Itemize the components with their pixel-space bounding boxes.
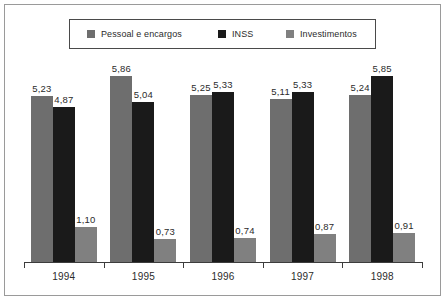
- bar-rect: [190, 95, 212, 262]
- bar-rect: [234, 238, 256, 262]
- x-axis-tick: [263, 262, 264, 268]
- bar: 5,04: [132, 102, 154, 262]
- chart-legend: Pessoal e encargos INSS Investimentos: [69, 19, 376, 49]
- x-axis-tick: [183, 262, 184, 268]
- bar-value-label: 0,73: [156, 226, 175, 237]
- bar-rect: [292, 92, 314, 262]
- bar-rect: [371, 76, 393, 262]
- bar-value-label: 5,85: [373, 63, 392, 74]
- legend-entry-investimentos: Investimentos: [286, 29, 357, 39]
- bar-rect: [314, 234, 336, 262]
- bar: 5,33: [292, 92, 314, 262]
- legend-swatch-icon: [218, 30, 226, 38]
- x-axis-tick: [104, 262, 105, 268]
- bar-rect: [212, 92, 234, 262]
- bar-value-label: 0,74: [235, 225, 254, 236]
- bar-group: 5,115,330,87: [263, 60, 343, 262]
- bar-value-label: 5,24: [351, 82, 370, 93]
- bar-value-label: 0,91: [395, 220, 414, 231]
- x-axis-line: [24, 262, 422, 263]
- bar: 0,74: [234, 238, 256, 262]
- bar: 5,85: [371, 76, 393, 262]
- bar-chart-figure: Pessoal e encargos INSS Investimentos 5,…: [0, 0, 445, 300]
- legend-swatch-icon: [286, 30, 294, 38]
- bar-value-label: 5,11: [271, 86, 290, 97]
- legend-entry-pessoal-e-encargos: Pessoal e encargos: [87, 29, 182, 39]
- bar-group: 5,245,850,91: [342, 60, 422, 262]
- bar-group: 5,255,330,74: [183, 60, 263, 262]
- bar-value-label: 5,23: [32, 83, 51, 94]
- bar-group: 5,234,871,10: [24, 60, 104, 262]
- bar: 0,91: [393, 233, 415, 262]
- x-axis-category-label: 1998: [371, 271, 394, 282]
- bar-rect: [110, 76, 132, 262]
- bar-rect: [270, 99, 292, 262]
- bar-value-label: 1,10: [76, 214, 95, 225]
- bar-rect: [53, 107, 75, 262]
- bar-rect: [75, 227, 97, 262]
- x-axis-category-label: 1995: [132, 271, 155, 282]
- bar-rect: [154, 239, 176, 262]
- x-axis-tick: [24, 262, 25, 268]
- bar: 5,86: [110, 76, 132, 262]
- legend-label: INSS: [232, 29, 253, 39]
- bar: 5,25: [190, 95, 212, 262]
- bar-rect: [31, 96, 53, 262]
- plot-area: 5,234,871,105,865,040,735,255,330,745,11…: [24, 60, 422, 262]
- bar-group: 5,865,040,73: [104, 60, 184, 262]
- bar-value-label: 4,87: [54, 94, 73, 105]
- x-axis-tick: [342, 262, 343, 268]
- bar: 5,24: [349, 95, 371, 262]
- legend-label: Pessoal e encargos: [101, 29, 182, 39]
- bar: 5,33: [212, 92, 234, 262]
- bar: 5,23: [31, 96, 53, 262]
- legend-swatch-icon: [87, 30, 95, 38]
- bar-rect: [132, 102, 154, 262]
- bar-value-label: 5,25: [191, 82, 210, 93]
- bar: 1,10: [75, 227, 97, 262]
- bar-value-label: 5,33: [213, 79, 232, 90]
- bar-rect: [393, 233, 415, 262]
- bar: 5,11: [270, 99, 292, 262]
- bar-value-label: 0,87: [315, 221, 334, 232]
- x-axis-category-label: 1997: [291, 271, 314, 282]
- x-axis-category-label: 1996: [211, 271, 234, 282]
- bar: 4,87: [53, 107, 75, 262]
- bar-value-label: 5,86: [112, 63, 131, 74]
- legend-entry-inss: INSS: [218, 29, 253, 39]
- bar-value-label: 5,04: [134, 89, 153, 100]
- bar: 0,73: [154, 239, 176, 262]
- legend-label: Investimentos: [300, 29, 357, 39]
- x-axis-category-label: 1994: [52, 271, 75, 282]
- x-axis-tick: [422, 262, 423, 268]
- bar-value-label: 5,33: [293, 79, 312, 90]
- bar-rect: [349, 95, 371, 262]
- bar: 0,87: [314, 234, 336, 262]
